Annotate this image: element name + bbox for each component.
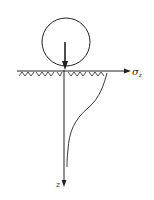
circular-load-body — [42, 18, 90, 66]
depth-axis — [62, 70, 67, 187]
soil-hatching — [19, 72, 104, 76]
z-axis-label: z — [55, 180, 61, 189]
ground-surface-axis — [17, 69, 131, 74]
stress-distribution-diagram: σz z — [0, 0, 154, 200]
sigma-axis-label: σz — [132, 66, 143, 78]
stress-curve — [67, 73, 107, 167]
